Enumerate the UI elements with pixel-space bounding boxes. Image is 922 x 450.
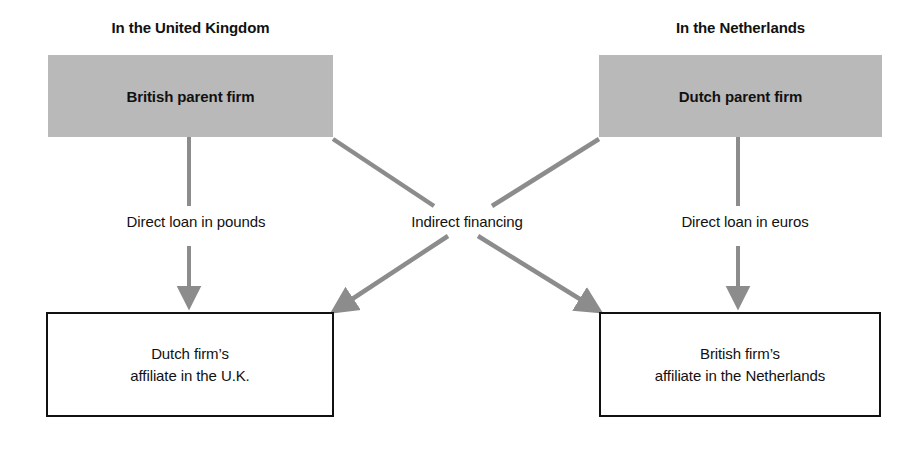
heading-netherlands: In the Netherlands <box>599 20 882 35</box>
heading-united-kingdom: In the United Kingdom <box>48 20 333 35</box>
node-british-firm-nl-affiliate: British firm’s affiliate in the Netherla… <box>599 312 881 417</box>
node-dutch-firm-uk-affiliate: Dutch firm’s affiliate in the U.K. <box>46 312 334 417</box>
node-british-parent-firm: British parent firm <box>48 55 333 137</box>
node-british-firm-nl-affiliate-line1: British firm’s <box>700 345 780 362</box>
node-dutch-firm-uk-affiliate-label: Dutch firm’s affiliate in the U.K. <box>130 343 249 387</box>
edge-label-direct-loan-pounds: Direct loan in pounds <box>88 211 304 232</box>
edge-label-indirect-financing: Indirect financing <box>368 211 566 232</box>
node-dutch-parent-firm: Dutch parent firm <box>599 55 882 137</box>
diagram-canvas: In the United Kingdom In the Netherlands… <box>0 0 922 450</box>
edge-label-direct-loan-euros: Direct loan in euros <box>648 211 842 232</box>
node-dutch-firm-uk-affiliate-line1: Dutch firm’s <box>151 345 229 362</box>
node-british-firm-nl-affiliate-line2: affiliate in the Netherlands <box>655 367 825 384</box>
node-british-parent-firm-label: British parent firm <box>126 89 254 104</box>
node-british-firm-nl-affiliate-label: British firm’s affiliate in the Netherla… <box>655 343 825 387</box>
node-dutch-parent-firm-label: Dutch parent firm <box>679 89 802 104</box>
node-dutch-firm-uk-affiliate-line2: affiliate in the U.K. <box>130 367 249 384</box>
